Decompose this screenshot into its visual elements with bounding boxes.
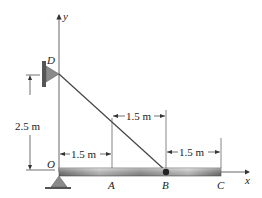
- x-axis-label: x: [244, 174, 250, 186]
- beam-cable-diagram: y D 2.5 m 1.5 m 1.5 m: [0, 0, 262, 198]
- dimension-AB: 1.5 m: [113, 110, 165, 122]
- point-label-D: D: [46, 54, 55, 66]
- dimension-BC: 1.5 m: [167, 146, 220, 158]
- wall-support-D: D: [42, 54, 59, 87]
- y-axis: y: [59, 10, 68, 172]
- dimension-label-2-5m: 2.5 m: [15, 120, 41, 132]
- dimension-label-AB: 1.5 m: [126, 110, 152, 122]
- dimension-label-OA: 1.5 m: [71, 148, 97, 160]
- dimension-vertical-2-5m: 2.5 m: [15, 75, 55, 170]
- x-axis: x: [221, 172, 250, 186]
- point-label-B: B: [162, 179, 169, 191]
- dimension-label-BC: 1.5 m: [179, 146, 205, 158]
- point-label-O: O: [47, 158, 55, 170]
- beam-OC: [59, 168, 221, 176]
- y-axis-label: y: [62, 10, 68, 22]
- pin-joint-B: [163, 169, 169, 175]
- point-label-A: A: [107, 179, 115, 191]
- dimension-OA: 1.5 m: [60, 148, 111, 160]
- point-label-C: C: [217, 179, 225, 191]
